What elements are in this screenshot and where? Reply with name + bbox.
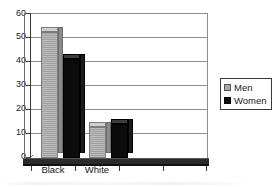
x-tick-label-black: Black	[31, 165, 75, 175]
y-tick-mark	[26, 109, 31, 110]
legend-swatch-men-icon	[224, 84, 231, 91]
legend-item-women: Women	[224, 95, 267, 106]
bar-top-face	[111, 119, 128, 124]
bar-women-black	[63, 59, 80, 158]
bar-side-face	[128, 119, 133, 153]
y-tick-mark	[26, 85, 31, 86]
bar-top-face	[63, 54, 80, 59]
bar-chart: 60 50 40 30 20 10 0	[0, 0, 278, 187]
bar-face	[63, 59, 80, 158]
plot-area	[30, 13, 208, 158]
y-tick-mark	[26, 61, 31, 62]
legend-label-men: Men	[234, 83, 252, 93]
plot-right-edge	[207, 13, 208, 158]
scan-artifact	[0, 182, 278, 185]
bar-side-face	[80, 54, 85, 153]
bar-face	[89, 127, 106, 158]
bar-men-white	[89, 127, 106, 158]
bar-men-black	[41, 32, 58, 158]
bar-top-face	[89, 122, 106, 127]
x-tick-label-white: White	[75, 165, 119, 175]
x-tick-mark	[163, 166, 164, 171]
y-tick-mark	[26, 37, 31, 38]
x-tick-mark	[119, 166, 120, 171]
legend: Men Women	[220, 78, 272, 110]
x-tick-mark	[206, 166, 207, 171]
bar-face	[41, 32, 58, 158]
legend-swatch-women-icon	[224, 97, 231, 104]
bar-face	[111, 124, 128, 158]
y-tick-mark	[26, 133, 31, 134]
gridline	[30, 13, 208, 14]
legend-label-women: Women	[234, 96, 267, 106]
plot-depth-edge	[24, 13, 25, 164]
y-tick-mark	[26, 13, 31, 14]
bar-top-face	[41, 27, 58, 32]
bar-women-white	[111, 124, 128, 158]
legend-item-men: Men	[224, 82, 267, 93]
